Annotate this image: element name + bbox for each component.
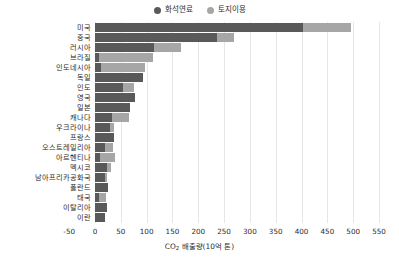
bar-row[interactable]: [95, 213, 105, 222]
legend-item[interactable]: 토지이용: [207, 6, 246, 14]
chart-legend: 화석연료토지이용: [0, 3, 399, 17]
x-tick-label: 250: [217, 227, 231, 236]
category-label: 이탈리아: [0, 203, 91, 212]
bar-segment: [95, 213, 105, 222]
x-tick-label: 500: [346, 227, 360, 236]
category-label: 인도: [0, 83, 91, 92]
bar-row[interactable]: [95, 23, 351, 32]
bar-row[interactable]: [95, 83, 134, 92]
bar-segment: [95, 73, 143, 82]
bar-row[interactable]: [95, 123, 114, 132]
bar-segment: [95, 183, 108, 192]
bar-segment: [303, 23, 351, 32]
bar-segment: [217, 33, 235, 42]
category-label: 인도네시아: [0, 63, 91, 72]
bar-row[interactable]: [95, 43, 181, 52]
value-axis: CO2 배출량(10억 톤) -500501001502002503003504…: [0, 223, 399, 265]
bar-segment: [95, 93, 135, 102]
bar-segment: [105, 143, 113, 152]
category-label: 미국: [0, 23, 91, 32]
x-tick-label: 400: [295, 227, 309, 236]
x-tick-label: 0: [93, 227, 98, 236]
x-axis-title-main: CO: [165, 242, 176, 251]
x-tick-label: 200: [191, 227, 205, 236]
bar-row[interactable]: [95, 33, 234, 42]
legend-label: 화석연료: [165, 6, 193, 14]
bar-row[interactable]: [95, 203, 107, 212]
bar-row[interactable]: [95, 153, 115, 162]
gridline: [172, 22, 173, 223]
bar-row[interactable]: [95, 133, 114, 142]
bar-segment: [95, 163, 107, 172]
bar-row[interactable]: [95, 183, 108, 192]
gridline: [250, 22, 251, 223]
bar-segment: [105, 173, 107, 182]
plot-area: [95, 22, 379, 223]
x-tick-label: 100: [140, 227, 154, 236]
x-tick-label: 450: [321, 227, 335, 236]
gridline: [198, 22, 199, 223]
bar-segment: [123, 83, 134, 92]
bar-segment: [95, 203, 107, 212]
bar-segment: [95, 123, 110, 132]
category-label: 오스트레일리아: [0, 143, 91, 152]
bar-row[interactable]: [95, 63, 145, 72]
bar-row[interactable]: [95, 173, 107, 182]
bar-segment: [95, 173, 105, 182]
category-label: 태국: [0, 193, 91, 202]
category-label: 아르헨티나: [0, 153, 91, 162]
x-tick-label: 550: [372, 227, 386, 236]
bar-segment: [110, 123, 113, 132]
gridline: [353, 22, 354, 223]
gridline: [302, 22, 303, 223]
legend-swatch-icon: [154, 7, 161, 14]
gridline: [276, 22, 277, 223]
bar-segment: [95, 143, 105, 152]
bar-segment: [99, 193, 106, 202]
x-tick-label: 300: [243, 227, 257, 236]
category-label: 캐나다: [0, 113, 91, 122]
bar-segment: [95, 83, 123, 92]
x-tick-label: -50: [63, 227, 75, 236]
bar-segment: [101, 63, 144, 72]
category-label: 중국: [0, 33, 91, 42]
bar-segment: [107, 163, 111, 172]
bar-row[interactable]: [95, 113, 129, 122]
bar-segment: [99, 53, 153, 62]
gridline: [327, 22, 328, 223]
x-tick-label: 150: [166, 227, 180, 236]
category-label: 폴란드: [0, 183, 91, 192]
bar-segment: [95, 23, 303, 32]
x-axis-title-rest: 배출량(10억 톤): [179, 242, 234, 251]
bar-row[interactable]: [95, 143, 113, 152]
bar-row[interactable]: [95, 193, 106, 202]
co2-emissions-bar-chart: 화석연료토지이용 미국중국러시아브라질인도네시아독일인도영국일본캐나다우크라이나…: [0, 0, 399, 265]
category-label: 브라질: [0, 53, 91, 62]
category-label: 멕시코: [0, 163, 91, 172]
bar-row[interactable]: [95, 53, 153, 62]
bar-segment: [100, 153, 114, 162]
bar-row[interactable]: [95, 93, 135, 102]
legend-swatch-icon: [207, 7, 214, 14]
category-label: 일본: [0, 103, 91, 112]
bar-row[interactable]: [95, 103, 130, 112]
gridline: [379, 22, 380, 223]
legend-label: 토지이용: [218, 6, 246, 14]
bar-row[interactable]: [95, 73, 143, 82]
legend-item[interactable]: 화석연료: [154, 6, 193, 14]
category-label: 러시아: [0, 43, 91, 52]
bar-segment: [95, 113, 112, 122]
category-label: 영국: [0, 93, 91, 102]
category-label: 독일: [0, 73, 91, 82]
bar-segment: [95, 33, 217, 42]
bar-segment: [112, 113, 129, 122]
x-tick-label: 50: [116, 227, 125, 236]
category-label: 우크라이나: [0, 123, 91, 132]
bar-segment: [95, 43, 154, 52]
bar-segment: [95, 103, 130, 112]
bar-segment: [95, 133, 114, 142]
bar-row[interactable]: [95, 163, 111, 172]
bar-segment: [154, 43, 181, 52]
category-axis-labels: 미국중국러시아브라질인도네시아독일인도영국일본캐나다우크라이나프랑스오스트레일리…: [0, 22, 91, 223]
gridline: [224, 22, 225, 223]
